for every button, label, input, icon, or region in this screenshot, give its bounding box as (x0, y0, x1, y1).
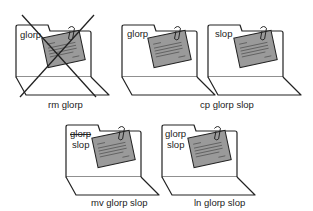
folder-label: glorp (127, 28, 148, 39)
folder-label: slop (215, 28, 232, 39)
command-caption: cp glorp slop (200, 99, 254, 110)
folder-label-new: slop (72, 139, 89, 150)
command-caption: rm glorp (48, 99, 83, 110)
folder-label: glorp (165, 128, 186, 139)
command-caption: ln glorp slop (194, 197, 245, 208)
folder-label-link: slop (167, 139, 184, 150)
command-caption: mv glorp slop (91, 197, 148, 208)
folder-label-old: glorp (70, 128, 91, 139)
cross-out-icon (16, 15, 111, 105)
